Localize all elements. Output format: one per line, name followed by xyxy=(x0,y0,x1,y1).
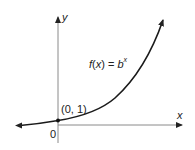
exponential-curve xyxy=(20,20,163,126)
point-0-1 xyxy=(56,119,60,123)
function-exponent: x xyxy=(124,56,128,63)
curve-left-arrow-icon xyxy=(15,123,22,129)
point-label: (0, 1) xyxy=(61,104,87,115)
origin-label: 0 xyxy=(50,129,56,140)
graph-canvas xyxy=(0,0,195,150)
function-label: f(x) = bx xyxy=(89,57,127,70)
x-axis-label: x xyxy=(177,110,183,121)
function-name: f xyxy=(89,58,92,70)
y-axis-label: y xyxy=(62,12,68,23)
equals-sign: = xyxy=(105,58,118,70)
function-base: b xyxy=(117,58,123,70)
function-arg: x xyxy=(96,58,102,70)
